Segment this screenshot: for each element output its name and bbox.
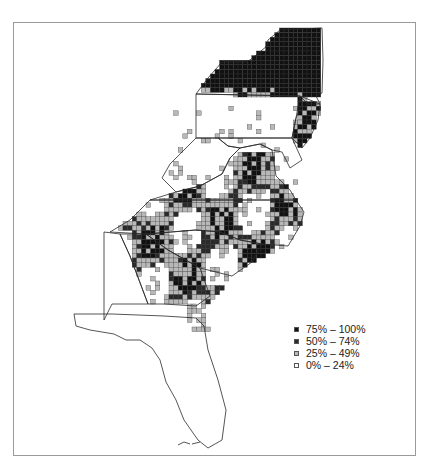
grid-cell — [132, 221, 137, 226]
grid-cell — [178, 203, 183, 208]
grid-cell — [187, 198, 192, 203]
grid-cell — [261, 161, 266, 166]
grid-cell — [224, 65, 229, 70]
grid-cell — [146, 221, 151, 226]
grid-cell — [284, 88, 289, 93]
grid-cell — [224, 240, 229, 245]
grid-cell — [279, 221, 284, 226]
grid-cell — [123, 226, 128, 231]
grid-cell — [137, 221, 142, 226]
grid-cell — [243, 161, 248, 166]
grid-cell — [270, 203, 275, 208]
grid-cell — [243, 235, 248, 240]
grid-cell — [284, 83, 289, 88]
grid-cell — [266, 171, 271, 176]
grid-cell — [238, 189, 243, 194]
grid-cell — [201, 290, 206, 295]
grid-cell — [215, 79, 220, 84]
grid-cell — [293, 203, 298, 208]
grid-cell — [183, 299, 188, 304]
grid-cell — [229, 106, 234, 111]
grid-cell — [201, 194, 206, 199]
grid-cell — [316, 69, 321, 74]
grid-cell — [298, 56, 303, 61]
grid-cell — [256, 79, 261, 84]
grid-cell — [210, 226, 215, 231]
grid-cell — [261, 171, 266, 176]
grid-cell — [151, 290, 156, 295]
grid-cell — [243, 253, 248, 258]
grid-cell — [247, 244, 252, 249]
grid-cell — [256, 92, 261, 97]
grid-cell — [252, 152, 257, 157]
grid-cell — [302, 46, 307, 51]
grid-cell — [164, 299, 169, 304]
grid-cell — [284, 221, 289, 226]
grid-cell — [155, 235, 160, 240]
grid-cell — [256, 69, 261, 74]
grid-cell — [187, 290, 192, 295]
grid-cell — [201, 207, 206, 212]
grid-cell — [284, 33, 289, 38]
grid-cell — [252, 180, 257, 185]
grid-cell — [229, 226, 234, 231]
grid-cell — [270, 212, 275, 217]
grid-cell — [137, 258, 142, 263]
grid-cell — [266, 92, 271, 97]
grid-cell — [229, 180, 234, 185]
grid-cell — [201, 88, 206, 93]
grid-cell — [201, 295, 206, 300]
grid-cell — [243, 157, 248, 162]
grid-cell — [169, 207, 174, 212]
grid-cell — [312, 79, 317, 84]
grid-cell — [146, 258, 151, 263]
grid-cell — [256, 166, 261, 171]
grid-cell — [128, 235, 133, 240]
grid-cell — [270, 157, 275, 162]
grid-cell — [247, 65, 252, 70]
grid-cell — [169, 272, 174, 277]
grid-cell — [210, 79, 215, 84]
grid-cell — [307, 42, 312, 47]
grid-cell — [183, 253, 188, 258]
grid-cell — [174, 263, 179, 268]
grid-cell — [206, 83, 211, 88]
grid-cell — [132, 244, 137, 249]
grid-cell — [151, 249, 156, 254]
grid-cell — [141, 226, 146, 231]
grid-cell — [141, 244, 146, 249]
grid-cell — [247, 88, 252, 93]
grid-cell — [293, 88, 298, 93]
grid-cell — [270, 240, 275, 245]
grid-cell — [201, 244, 206, 249]
grid-cell — [302, 79, 307, 84]
grid-cell — [261, 249, 266, 254]
grid-cell — [275, 184, 280, 189]
grid-cell — [289, 33, 294, 38]
grid-cell — [256, 115, 261, 120]
grid-cell — [220, 198, 225, 203]
grid-cell — [293, 221, 298, 226]
grid-cell — [155, 286, 160, 291]
grid-cell — [201, 221, 206, 226]
grid-cell — [206, 212, 211, 217]
grid-cell — [270, 198, 275, 203]
grid-cell — [210, 295, 215, 300]
grid-cell — [261, 60, 266, 65]
grid-cell — [298, 115, 303, 120]
grid-cell — [197, 253, 202, 258]
grid-cell — [279, 51, 284, 56]
grid-cell — [316, 33, 321, 38]
grid-cell — [275, 60, 280, 65]
grid-cell — [141, 253, 146, 258]
grid-cell — [132, 235, 137, 240]
grid-cell — [247, 184, 252, 189]
grid-cell — [224, 74, 229, 79]
grid-cell — [197, 272, 202, 277]
grid-cell — [256, 152, 261, 157]
grid-cell — [155, 226, 160, 231]
grid-cell — [238, 79, 243, 84]
grid-cell — [187, 276, 192, 281]
grid-cell — [215, 217, 220, 222]
grid-cell — [215, 69, 220, 74]
